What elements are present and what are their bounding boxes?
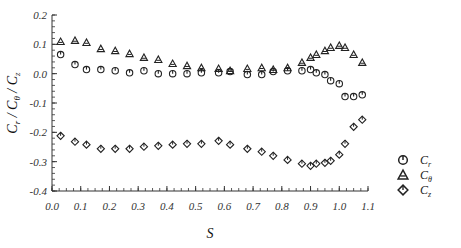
circle-marker-icon [98, 66, 104, 72]
x-tick-label: 0.7 [246, 200, 260, 212]
circle-marker-icon [313, 70, 319, 76]
diamond-marker-icon [336, 151, 343, 158]
triangle-marker-icon [140, 54, 147, 60]
diamond-marker-icon [350, 123, 357, 130]
diamond-marker-icon [258, 148, 265, 155]
circle-marker-icon [72, 61, 78, 67]
circle-marker-icon [322, 71, 328, 77]
circle-marker-icon [259, 71, 265, 77]
circle-marker-icon [350, 93, 356, 99]
triangle-marker-icon [83, 39, 90, 45]
x-tick-label: 0.9 [304, 200, 318, 212]
circle-marker-icon [336, 80, 342, 86]
triangle-marker-icon [336, 42, 343, 48]
triangle-marker-icon [359, 59, 366, 65]
diamond-marker-icon [140, 143, 147, 150]
legend-label: Cz [420, 183, 432, 199]
circle-marker-icon [155, 70, 161, 76]
x-tick-label: 0.4 [160, 200, 174, 212]
diamond-marker-icon [57, 132, 64, 139]
y-tick-label: 0.0 [33, 68, 47, 80]
circle-marker-icon [184, 70, 190, 76]
x-tick-label: 0.1 [74, 200, 88, 212]
diamond-marker-icon [83, 141, 90, 148]
circle-marker-icon [169, 70, 175, 76]
data-points [57, 37, 366, 169]
x-tick-label: 1.0 [332, 200, 346, 212]
y-tick-label: -0.3 [30, 156, 48, 168]
triangle-marker-icon [398, 170, 408, 179]
circle-marker-icon [327, 78, 333, 84]
diamond-marker-icon [270, 152, 277, 159]
triangle-marker-icon [97, 45, 104, 51]
triangle-marker-icon [57, 38, 64, 44]
legend-label: Cr [420, 153, 432, 169]
diamond-marker-icon [227, 141, 234, 148]
diamond-marker-icon [198, 140, 205, 147]
circle-marker-icon [83, 66, 89, 72]
diamond-marker-icon [71, 138, 78, 145]
diamond-marker-icon [155, 142, 162, 149]
x-tick-label: 0.8 [275, 200, 289, 212]
triangle-marker-icon [155, 56, 162, 62]
x-tick-label: 0.5 [189, 200, 203, 212]
circle-marker-icon [112, 68, 118, 74]
circle-marker-icon [244, 71, 250, 77]
circle-marker-icon [57, 51, 63, 57]
legend-label: Cθ [420, 168, 432, 184]
diamond-marker-icon [183, 140, 190, 147]
y-axis-label: Cr / Cθ / Cz [5, 72, 22, 134]
circle-marker-icon [215, 70, 221, 76]
circle-marker-icon [359, 92, 365, 98]
axes: 0.20.10.0-0.1-0.2-0.3-0.40.00.10.20.30.4… [30, 9, 375, 212]
x-axis-label: S [207, 226, 214, 241]
x-tick-label: 0.2 [103, 200, 117, 212]
triangle-marker-icon [169, 60, 176, 66]
diamond-marker-icon [169, 141, 176, 148]
circle-marker-icon [399, 156, 408, 165]
x-tick-label: 1.1 [361, 200, 375, 212]
diamond-marker-icon [97, 145, 104, 152]
diamond-marker-icon [341, 140, 348, 147]
circle-marker-icon [299, 68, 305, 74]
triangle-marker-icon [258, 64, 265, 70]
x-tick-label: 0.6 [217, 200, 231, 212]
triangle-marker-icon [313, 51, 320, 57]
triangle-marker-icon [298, 59, 305, 65]
triangle-marker-icon [112, 47, 119, 53]
x-tick-label: 0.0 [45, 200, 59, 212]
diamond-marker-icon [215, 137, 222, 144]
circle-marker-icon [141, 68, 147, 74]
diamond-marker-icon [298, 160, 305, 167]
diamond-marker-icon [112, 145, 119, 152]
diamond-marker-icon [244, 145, 251, 152]
circle-marker-icon [126, 70, 132, 76]
circle-marker-icon [342, 93, 348, 99]
y-tick-label: 0.2 [33, 9, 47, 21]
triangle-marker-icon [183, 62, 190, 68]
scatter-chart: 0.20.10.0-0.1-0.2-0.3-0.40.00.10.20.30.4… [0, 0, 461, 248]
y-tick-label: -0.4 [30, 185, 48, 197]
diamond-marker-icon [398, 185, 408, 195]
y-tick-label: -0.1 [30, 97, 47, 109]
triangle-marker-icon [244, 65, 251, 71]
legend: CrCθCz [398, 153, 432, 199]
diamond-marker-icon [126, 145, 133, 152]
triangle-marker-icon [327, 44, 334, 50]
diamond-marker-icon [284, 156, 291, 163]
y-tick-label: 0.1 [33, 38, 47, 50]
triangle-marker-icon [126, 50, 133, 56]
triangle-marker-icon [71, 37, 78, 43]
y-tick-label: -0.2 [30, 126, 48, 138]
triangle-marker-icon [350, 51, 357, 57]
x-tick-label: 0.3 [131, 200, 145, 212]
diamond-marker-icon [359, 116, 366, 123]
